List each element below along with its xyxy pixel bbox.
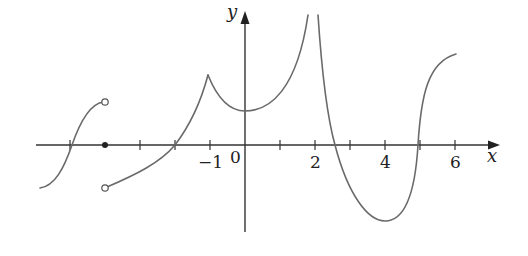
y-axis-arrow-icon bbox=[241, 11, 250, 24]
x-axis-label: x bbox=[487, 145, 497, 166]
origin-label: 0 bbox=[230, 147, 241, 167]
function-graph: −1 0 2 4 6 x y bbox=[0, 0, 528, 256]
tick-label-4: 4 bbox=[380, 152, 391, 172]
curve-piece-4 bbox=[318, 15, 456, 221]
tick-label-2: 2 bbox=[310, 152, 321, 172]
curve-piece-3 bbox=[208, 15, 308, 111]
tick-label-6: 6 bbox=[450, 152, 461, 172]
filled-dot bbox=[102, 142, 108, 148]
tick-label-neg1: −1 bbox=[198, 152, 223, 172]
y-axis-label: y bbox=[226, 1, 238, 22]
open-circle-lower bbox=[102, 185, 108, 191]
curve-piece-2 bbox=[107, 75, 208, 187]
open-circle-upper bbox=[102, 99, 108, 105]
